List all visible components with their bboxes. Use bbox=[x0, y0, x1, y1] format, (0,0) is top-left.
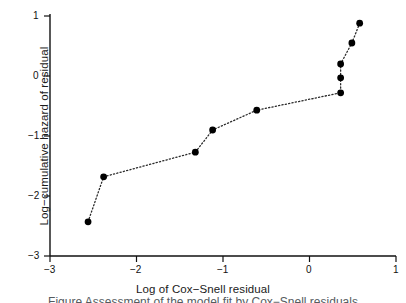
data-point-marker bbox=[85, 218, 92, 225]
data-point-marker bbox=[337, 74, 344, 81]
data-point-marker bbox=[337, 61, 344, 68]
data-series-line bbox=[88, 23, 360, 222]
figure-container: 1 0 −1 −2 −3 −3 −2 −1 0 1 Log of Cox−Sne… bbox=[0, 0, 406, 303]
data-point-marker bbox=[253, 107, 260, 114]
x-axis-ticks bbox=[50, 256, 396, 262]
x-tick-label-0: 0 bbox=[306, 264, 312, 275]
data-point-marker bbox=[100, 173, 107, 180]
data-point-marker bbox=[356, 20, 363, 27]
data-point-marker bbox=[337, 89, 344, 96]
data-point-marker bbox=[192, 149, 199, 156]
axes-lines bbox=[50, 14, 396, 256]
series-polyline bbox=[88, 23, 360, 222]
scatter-plot bbox=[0, 0, 406, 303]
data-point-marker bbox=[209, 127, 216, 134]
x-tick-label-n2: −2 bbox=[130, 264, 141, 275]
x-tick-label-n1: −1 bbox=[217, 264, 228, 275]
data-series-points bbox=[85, 20, 363, 225]
y-axis-title: Log−cumulative hazard of residual bbox=[38, 6, 50, 266]
data-point-marker bbox=[348, 40, 355, 47]
x-tick-label-1: 1 bbox=[393, 264, 399, 275]
x-axis-title: Log of Cox−Snell residual bbox=[0, 283, 406, 295]
figure-caption: Figure Assessment of the model fit by Co… bbox=[0, 296, 406, 303]
